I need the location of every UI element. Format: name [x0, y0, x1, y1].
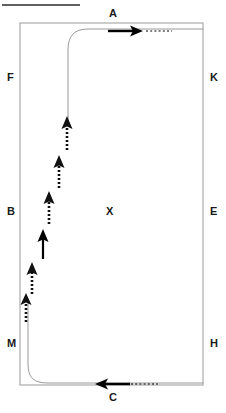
- movement-arrow-solid-up: [38, 229, 49, 259]
- half-pass-step-4: [27, 262, 38, 294]
- half-pass-step-5-head: [21, 293, 32, 305]
- arena-letter-f: F: [7, 72, 14, 83]
- entry-arrow-top: [108, 26, 172, 37]
- arena-letter-b: B: [7, 206, 15, 217]
- half-pass-step-1-head: [62, 116, 73, 129]
- arena-letter-c: C: [109, 392, 117, 403]
- arena-boundary: [20, 23, 203, 385]
- arena-letter-a: A: [109, 8, 117, 19]
- arena-letter-m: M: [7, 338, 16, 349]
- half-pass-step-2: [54, 155, 65, 188]
- arena-letter-e: E: [210, 206, 217, 217]
- dressage-arena-diagram: A F K B X E M H C: [0, 0, 226, 413]
- half-pass-step-3: [44, 191, 55, 224]
- arena-letter-h: H: [210, 338, 218, 349]
- arena-letter-x: X: [106, 206, 113, 217]
- half-pass-step-5: [21, 293, 32, 322]
- arena-letter-k: K: [210, 72, 218, 83]
- exit-arrow-bottom: [95, 379, 158, 390]
- half-pass-step-1: [62, 116, 73, 150]
- track-segment-top-entry: [68, 29, 203, 125]
- track-segment-bottom-exit: [28, 300, 203, 383]
